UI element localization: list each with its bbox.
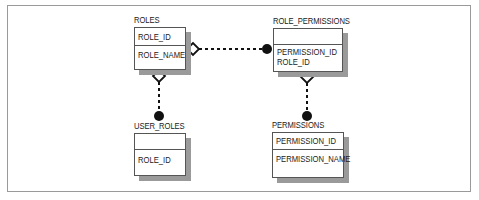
hollow-diamond-icon: [301, 71, 313, 83]
entity-box: PERMISSION_ID ROLE_ID: [273, 28, 343, 72]
key-section: ROLE_ID: [135, 28, 185, 46]
key-section: [135, 134, 185, 150]
attribute-section: ROLE_ID: [135, 150, 185, 165]
entity-box: ROLE_ID ROLE_NAME: [134, 27, 186, 70]
field: PERMISSION_NAME: [276, 154, 333, 164]
field: ROLE_ID: [277, 57, 332, 67]
filled-circle-icon: [262, 44, 272, 54]
entity-box: PERMISSION_ID PERMISSION_NAME: [272, 132, 344, 178]
attribute-section: ROLE_NAME: [135, 46, 185, 60]
key-section: [274, 29, 342, 45]
field: ROLE_NAME: [138, 50, 178, 60]
relationship-connectors: [0, 0, 479, 200]
filled-circle-icon: [154, 111, 164, 121]
entity-title: USER_ROLES: [134, 121, 185, 131]
attribute-section: PERMISSION_NAME: [273, 150, 343, 164]
hollow-diamond-icon: [153, 70, 165, 82]
entity-title: ROLE_PERMISSIONS: [273, 16, 350, 26]
relationship-role-permissions-permissions: [301, 71, 313, 121]
attribute-section: PERMISSION_ID ROLE_ID: [274, 45, 342, 67]
field: ROLE_ID: [138, 155, 178, 165]
field: PERMISSION_ID: [277, 47, 332, 57]
key-section: PERMISSION_ID: [273, 133, 343, 150]
entity-title: ROLES: [134, 15, 160, 25]
entity-title: PERMISSIONS: [272, 120, 324, 130]
field: ROLE_ID: [138, 32, 178, 42]
hollow-diamond-icon: [187, 43, 199, 55]
relationship-roles-user-roles: [153, 70, 165, 121]
relationship-roles-role-permissions: [187, 43, 272, 55]
field: PERMISSION_ID: [276, 136, 333, 146]
entity-box: ROLE_ID: [134, 133, 186, 176]
